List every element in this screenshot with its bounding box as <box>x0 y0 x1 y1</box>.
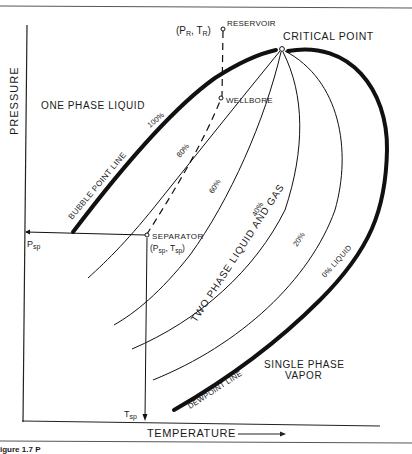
t-sep-label: Tsp <box>124 409 137 421</box>
quality-label-80: 80% <box>175 142 192 160</box>
two-phase-label: TWO PHASE LIQUID AND GAS <box>188 182 286 324</box>
dewpoint-curve <box>174 49 387 410</box>
reservoir-coords: (PR, TR) <box>176 25 211 37</box>
x-axis-label: TEMPERATURE <box>147 427 236 439</box>
single-phase-vapor-label-2: VAPOR <box>285 370 322 381</box>
p-sep-label: Psp <box>27 239 41 251</box>
bubble-point-line-label: BUBBLE POINT LINE <box>67 150 128 221</box>
critical-point-label: CRITICAL POINT <box>283 30 374 42</box>
one-phase-liquid-label: ONE PHASE LIQUID <box>41 100 145 111</box>
bubble-point-curve <box>73 50 276 232</box>
separator-coords: (Psp, Tsp) <box>150 243 185 255</box>
y-axis-label: PRESSURE <box>8 66 20 135</box>
critical-point-marker <box>280 47 285 52</box>
wellbore-marker <box>219 96 223 100</box>
dewpoint-line-label: DEWPOINT LINE <box>186 369 244 411</box>
t-sep-arrow-icon <box>143 414 148 421</box>
top-rule <box>0 6 412 8</box>
reservoir-label: RESERVOIR <box>227 19 276 28</box>
p-sep-guide <box>26 232 145 235</box>
separator-marker <box>145 233 149 237</box>
quality-label-0-liquid: 0% LIQUID <box>320 243 354 279</box>
reservoir-marker <box>221 27 225 31</box>
x-axis-label-group: TEMPERATURE <box>147 427 286 439</box>
p-sep-arrow-icon <box>25 230 30 235</box>
phase-diagram: PRESSURE TEMPERATURE ONE PHASE LIQUID TW… <box>0 0 412 454</box>
x-axis <box>22 421 380 426</box>
quality-label-60: 60% <box>207 177 223 195</box>
figure-caption: igure 1.7 P <box>0 445 41 454</box>
quality-label-20: 20% <box>291 230 307 248</box>
wellbore-label: WELLBORE <box>226 96 273 105</box>
t-sep-guide <box>145 238 147 417</box>
y-axis <box>23 25 27 422</box>
production-path <box>147 31 223 234</box>
separator-label: SEPARATOR <box>152 232 204 241</box>
right-arrow-icon <box>238 432 286 437</box>
single-phase-vapor-label-1: SINGLE PHASE <box>264 359 345 370</box>
caption-rule <box>0 441 412 443</box>
